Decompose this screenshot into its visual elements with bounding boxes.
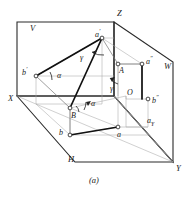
marker-a-prime — [100, 36, 104, 40]
figure-caption: (a) — [89, 176, 99, 185]
plane-label-v: V — [30, 24, 35, 33]
point-label-b: b — [59, 129, 63, 137]
marker-a — [116, 125, 120, 129]
plane-label-h: H — [68, 155, 74, 164]
angle-label-alpha-upper: α — [57, 72, 61, 80]
angle-arcs — [50, 52, 118, 112]
angle-label-alpha-lower: α — [91, 100, 95, 108]
projector-B-a — [70, 108, 118, 127]
point-label-b-prime: b′ — [22, 69, 27, 77]
point-label-a-dprime: a″ — [146, 58, 153, 66]
edge-bprime-B — [36, 76, 70, 108]
marker-b-dprime — [146, 97, 150, 101]
marker-b-prime — [34, 74, 38, 78]
line-bprime-aprime-thick — [36, 38, 102, 76]
angle-label-gamma-upper: γ — [80, 54, 83, 62]
axis-label-z: Z — [117, 9, 122, 18]
marker-a-dprime — [140, 62, 144, 66]
marker-b — [68, 133, 72, 137]
edge-aprime-A — [102, 38, 118, 64]
projector-B-oline — [70, 96, 126, 108]
point-label-O: O — [127, 89, 133, 97]
y-axis-line — [114, 96, 173, 162]
point-label-B: B — [71, 112, 76, 120]
projector-xfoot-b — [36, 104, 70, 135]
point-label-b-dprime: b″ — [152, 97, 159, 105]
point-label-a: a — [117, 131, 121, 139]
angle-arrowheads — [86, 50, 115, 106]
plane-label-w: W — [164, 62, 171, 71]
axis-label-y: Y — [176, 164, 181, 173]
point-label-A: A — [119, 67, 124, 75]
arc-alpha-lower — [84, 102, 86, 110]
axis-label-x: X — [8, 94, 13, 103]
point-markers — [34, 36, 150, 137]
projector-aprime-adprime — [102, 38, 142, 64]
line-aprime-B-thick — [70, 38, 102, 108]
point-label-a-y: aY — [147, 117, 154, 125]
figure-container: V W H X Y Z a′ b′ a″ b″ A B a b O aY α α… — [0, 0, 190, 198]
marker-B — [68, 106, 72, 110]
angle-label-gamma-lower: γ — [110, 85, 113, 93]
point-label-a-prime: a′ — [95, 31, 100, 39]
line-b-a-thick — [70, 127, 118, 135]
